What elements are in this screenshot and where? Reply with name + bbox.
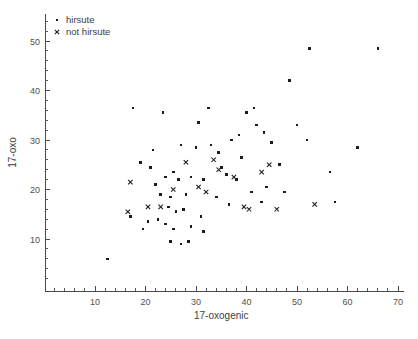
data-point bbox=[169, 240, 172, 243]
data-point bbox=[245, 111, 248, 114]
data-point bbox=[265, 186, 268, 189]
data-point bbox=[232, 175, 236, 179]
data-point bbox=[177, 178, 180, 181]
legend-marker-cross bbox=[55, 30, 59, 34]
data-point bbox=[157, 218, 160, 221]
data-point bbox=[207, 107, 210, 110]
data-point bbox=[128, 180, 132, 184]
data-point bbox=[225, 173, 228, 176]
data-point bbox=[106, 258, 109, 261]
data-point bbox=[306, 139, 309, 142]
data-point bbox=[184, 160, 188, 164]
data-point bbox=[162, 111, 165, 114]
data-point bbox=[250, 191, 253, 194]
data-point bbox=[247, 207, 251, 211]
legend: hirsutenot hirsute bbox=[55, 14, 111, 37]
data-point bbox=[270, 141, 273, 144]
data-point bbox=[190, 176, 193, 179]
y-tick-label: 50 bbox=[30, 37, 40, 47]
data-point bbox=[329, 171, 332, 174]
data-point bbox=[334, 201, 337, 204]
x-tick-label: 70 bbox=[393, 297, 403, 307]
legend-marker-square bbox=[56, 19, 59, 22]
data-point bbox=[202, 230, 205, 233]
data-point bbox=[215, 196, 218, 199]
data-point bbox=[255, 124, 258, 127]
data-point bbox=[259, 170, 263, 174]
legend-label: hirsute bbox=[66, 14, 95, 25]
data-point bbox=[126, 210, 130, 214]
data-point bbox=[260, 201, 263, 204]
axes bbox=[45, 14, 404, 291]
y-tick-label: 20 bbox=[30, 185, 40, 195]
data-point bbox=[171, 187, 175, 191]
data-point bbox=[377, 47, 380, 50]
data-point bbox=[195, 146, 198, 149]
data-point bbox=[196, 185, 200, 189]
data-point bbox=[180, 144, 183, 147]
data-point bbox=[253, 107, 256, 110]
data-point bbox=[230, 139, 233, 142]
x-tick-label: 50 bbox=[292, 297, 302, 307]
data-point bbox=[158, 205, 162, 209]
x-tick-label: 40 bbox=[241, 297, 251, 307]
data-point bbox=[278, 163, 281, 166]
x-tick-label: 10 bbox=[90, 297, 100, 307]
data-point bbox=[228, 203, 231, 206]
y-tick-label: 40 bbox=[30, 86, 40, 96]
data-point bbox=[147, 220, 150, 223]
x-axis-ticks: 10203040506070 bbox=[55, 286, 403, 307]
data-point bbox=[197, 121, 200, 124]
data-point bbox=[187, 240, 190, 243]
data-point bbox=[167, 206, 170, 209]
data-point bbox=[154, 183, 157, 186]
x-tick-label: 60 bbox=[342, 297, 352, 307]
data-point bbox=[275, 207, 279, 211]
data-point bbox=[211, 158, 215, 162]
data-point bbox=[159, 193, 162, 196]
legend-label: not hirsute bbox=[66, 26, 110, 37]
data-point bbox=[217, 151, 220, 154]
data-point bbox=[238, 134, 241, 137]
data-point bbox=[172, 228, 175, 231]
data-point bbox=[200, 215, 203, 218]
data-point bbox=[152, 149, 155, 152]
data-point bbox=[308, 47, 311, 50]
data-point bbox=[202, 178, 205, 181]
data-point bbox=[296, 124, 299, 127]
data-point bbox=[312, 202, 316, 206]
data-point bbox=[139, 161, 142, 164]
data-point bbox=[132, 107, 135, 110]
y-tick-label: 10 bbox=[30, 235, 40, 245]
x-tick-label: 30 bbox=[191, 297, 201, 307]
data-point bbox=[217, 168, 221, 172]
y-tick-label: 30 bbox=[30, 136, 40, 146]
data-point bbox=[185, 193, 188, 196]
data-point bbox=[242, 205, 246, 209]
y-axis-ticks: 1020304050 bbox=[30, 21, 50, 278]
scatter-plot-figure: 10203040506070102030405017-oxogenic17-ox… bbox=[0, 0, 418, 339]
x-axis-title: 17-oxogenic bbox=[194, 310, 248, 321]
x-tick-label: 20 bbox=[140, 297, 150, 307]
data-point bbox=[175, 210, 178, 213]
data-point bbox=[164, 176, 167, 179]
data-point bbox=[164, 223, 167, 226]
data-point bbox=[149, 166, 152, 169]
y-axis-title: 17-oxo bbox=[7, 137, 18, 168]
data-point bbox=[190, 225, 193, 228]
data-point bbox=[240, 156, 243, 159]
data-point bbox=[204, 190, 208, 194]
data-point bbox=[182, 208, 185, 211]
data-point bbox=[356, 146, 359, 149]
data-point bbox=[146, 205, 150, 209]
data-point bbox=[210, 144, 213, 147]
data-point bbox=[142, 228, 145, 231]
data-point bbox=[288, 79, 291, 82]
data-point bbox=[129, 215, 132, 218]
data-point bbox=[180, 243, 183, 246]
series-hirsute bbox=[106, 47, 379, 260]
data-point bbox=[169, 196, 172, 199]
data-point bbox=[283, 191, 286, 194]
data-point bbox=[172, 171, 175, 174]
data-point bbox=[267, 163, 271, 167]
